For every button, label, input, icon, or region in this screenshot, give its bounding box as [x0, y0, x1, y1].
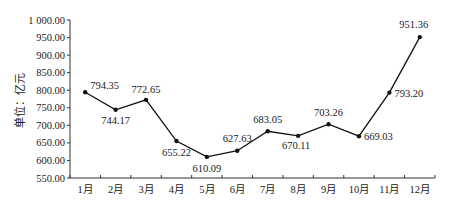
y-tick-label: 800.00: [36, 85, 65, 96]
y-tick-label: 600.00: [36, 155, 65, 166]
x-tick-label: 10月: [349, 184, 370, 195]
data-point: [387, 90, 391, 94]
x-tick-label: 9月: [321, 184, 336, 195]
y-tick-label: 850.00: [36, 67, 65, 78]
data-point: [83, 90, 87, 94]
x-tick-label: 2月: [108, 184, 123, 195]
data-label: 627.63: [223, 133, 252, 144]
data-point: [144, 98, 148, 102]
data-point: [205, 155, 209, 159]
data-labels: 794.35744.17772.65655.22610.09627.63683.…: [90, 19, 428, 174]
y-tick-label: 1 000.00: [28, 15, 65, 26]
data-point: [113, 108, 117, 112]
data-label: 669.03: [364, 131, 393, 142]
data-point: [357, 134, 361, 138]
data-point: [235, 149, 239, 153]
y-tick-label: 700.00: [36, 120, 65, 131]
x-tick-label: 5月: [199, 184, 214, 195]
data-label: 703.26: [314, 107, 343, 118]
data-point: [266, 129, 270, 133]
x-tick-label: 11月: [379, 184, 399, 195]
y-tick-label: 650.00: [36, 137, 65, 148]
data-label: 794.35: [90, 80, 119, 91]
data-point: [296, 134, 300, 138]
x-tick-label: 8月: [291, 184, 306, 195]
x-tick-label: 1月: [78, 184, 93, 195]
y-tick-label: 550.00: [36, 173, 65, 184]
data-label: 744.17: [101, 115, 130, 126]
y-tick-label: 750.00: [36, 102, 65, 113]
x-tick-label: 6月: [230, 184, 245, 195]
data-label: 951.36: [399, 19, 428, 30]
data-label: 683.05: [253, 114, 282, 125]
y-axis-title: 单位：亿元: [13, 73, 26, 128]
data-point: [418, 35, 422, 39]
y-tick-label: 900.00: [36, 50, 65, 61]
data-label: 793.20: [394, 88, 423, 99]
x-tick-label: 3月: [138, 184, 153, 195]
data-label: 670.11: [282, 140, 311, 151]
data-point: [326, 122, 330, 126]
y-axis: 550.00600.00650.00700.00750.00800.00850.…: [28, 15, 70, 184]
y-tick-label: 950.00: [36, 32, 65, 43]
data-label: 610.09: [192, 163, 221, 174]
data-label: 655.22: [162, 147, 191, 158]
data-label: 772.65: [132, 84, 161, 95]
x-tick-label: 12月: [410, 184, 431, 195]
x-tick-label: 4月: [169, 184, 184, 195]
data-point: [174, 139, 178, 143]
x-axis: 1月2月3月4月5月6月7月8月9月10月11月12月: [70, 175, 435, 195]
x-tick-label: 7月: [260, 184, 275, 195]
line-chart: 550.00600.00650.00700.00750.00800.00850.…: [0, 0, 449, 208]
